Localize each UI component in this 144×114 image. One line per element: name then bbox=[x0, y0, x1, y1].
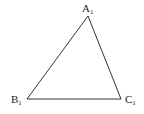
vertex-label-c1: C1 bbox=[125, 93, 136, 107]
vertex-label-a1: A1 bbox=[82, 2, 94, 16]
vertex-label-b1: B1 bbox=[11, 93, 22, 107]
triangle-diagram: A1 B1 C1 bbox=[0, 0, 144, 114]
triangle-a1b1c1 bbox=[27, 16, 121, 99]
